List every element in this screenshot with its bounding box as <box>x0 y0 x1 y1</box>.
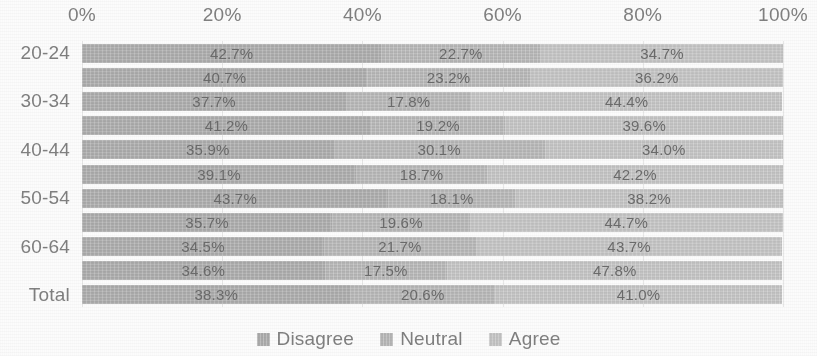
bar-value-label: 34.7% <box>640 45 684 62</box>
bar-segment-disagree: 41.2% <box>82 116 371 135</box>
legend-label: Disagree <box>277 328 355 350</box>
legend-item-neutral[interactable]: Neutral <box>380 328 463 350</box>
stacked-bar-chart: 0%20%40%60%80%100% 20-2430-3440-4450-546… <box>0 0 817 356</box>
bar-row: 41.2%19.2%39.6% <box>82 116 783 135</box>
category-axis-labels: 20-2430-3440-4450-5460-64Total <box>0 41 78 307</box>
bar-value-label: 44.7% <box>605 214 649 231</box>
bar-value-label: 40.7% <box>203 69 247 86</box>
x-axis-tick-100: 100% <box>758 4 808 26</box>
x-axis-tick-labels: 0%20%40%60%80%100% <box>0 4 817 32</box>
x-axis-tick-40: 40% <box>343 4 382 26</box>
bar-segment-agree: 42.2% <box>487 165 783 184</box>
x-axis-tick-80: 80% <box>623 4 662 26</box>
category-label-20-24: 20-24 <box>20 42 70 64</box>
chart-legend: DisagreeNeutralAgree <box>0 328 817 350</box>
bar-value-label: 18.1% <box>430 190 474 207</box>
category-label-40-44: 40-44 <box>20 139 70 161</box>
bar-value-label: 35.9% <box>186 141 230 158</box>
plot-area: 42.7%22.7%34.7%40.7%23.2%36.2%37.7%17.8%… <box>82 41 783 307</box>
bar-segment-agree: 34.7% <box>540 44 783 63</box>
bar-segment-agree: 41.0% <box>495 285 782 304</box>
bar-segment-neutral: 21.7% <box>324 237 476 256</box>
legend-item-agree[interactable]: Agree <box>489 328 561 350</box>
bar-value-label: 47.8% <box>593 262 637 279</box>
legend-swatch-disagree-icon <box>257 333 270 346</box>
bar-row: 35.9%30.1%34.0% <box>82 140 783 159</box>
bar-value-label: 43.7% <box>607 238 651 255</box>
bar-value-label: 19.2% <box>416 117 460 134</box>
bar-segment-neutral: 19.6% <box>332 213 469 232</box>
bar-segment-disagree: 35.7% <box>82 213 332 232</box>
bar-value-label: 37.7% <box>192 93 236 110</box>
bar-row: 34.6%17.5%47.8% <box>82 261 783 280</box>
bar-value-label: 39.6% <box>622 117 666 134</box>
bar-value-label: 18.7% <box>400 166 444 183</box>
bar-segment-disagree: 42.7% <box>82 44 381 63</box>
bar-segment-neutral: 30.1% <box>334 140 545 159</box>
bar-segment-disagree: 35.9% <box>82 140 334 159</box>
bar-segment-disagree: 34.6% <box>82 261 325 280</box>
bar-value-label: 42.7% <box>210 45 254 62</box>
bar-segment-neutral: 23.2% <box>367 68 530 87</box>
bar-segment-disagree: 43.7% <box>82 189 388 208</box>
bar-value-label: 23.2% <box>427 69 471 86</box>
category-label-50-54: 50-54 <box>20 187 70 209</box>
bar-value-label: 36.2% <box>635 69 679 86</box>
legend-label: Neutral <box>400 328 463 350</box>
bar-segment-agree: 36.2% <box>530 68 783 87</box>
legend-item-disagree[interactable]: Disagree <box>257 328 355 350</box>
bar-segment-agree: 39.6% <box>505 116 783 135</box>
bar-segment-neutral: 22.7% <box>381 44 540 63</box>
bar-segment-neutral: 18.7% <box>356 165 487 184</box>
x-axis-tick-20: 20% <box>203 4 242 26</box>
bar-value-label: 17.8% <box>387 93 431 110</box>
bar-value-label: 19.6% <box>379 214 423 231</box>
category-label-30-34: 30-34 <box>20 90 70 112</box>
bar-row: 35.7%19.6%44.7% <box>82 213 783 232</box>
bar-value-label: 21.7% <box>378 238 422 255</box>
bar-row: 34.5%21.7%43.7% <box>82 237 783 256</box>
bar-segment-agree: 34.0% <box>545 140 783 159</box>
legend-label: Agree <box>509 328 561 350</box>
bar-segment-neutral: 20.6% <box>350 285 494 304</box>
bar-value-label: 22.7% <box>439 45 483 62</box>
bar-segment-neutral: 18.1% <box>388 189 515 208</box>
bar-value-label: 20.6% <box>401 286 445 303</box>
bar-segment-disagree: 34.5% <box>82 237 324 256</box>
legend-swatch-neutral-icon <box>380 333 393 346</box>
bar-segment-neutral: 19.2% <box>371 116 506 135</box>
bar-row: 40.7%23.2%36.2% <box>82 68 783 87</box>
bar-segment-neutral: 17.5% <box>325 261 448 280</box>
bar-value-label: 34.0% <box>642 141 686 158</box>
bar-value-label: 34.5% <box>181 238 225 255</box>
bar-value-label: 17.5% <box>364 262 408 279</box>
bar-value-label: 44.4% <box>605 93 649 110</box>
bar-row: 42.7%22.7%34.7% <box>82 44 783 63</box>
bar-segment-disagree: 39.1% <box>82 165 356 184</box>
bar-value-label: 41.2% <box>205 117 249 134</box>
bar-segment-agree: 44.7% <box>470 213 783 232</box>
gridline-100 <box>783 41 784 307</box>
bar-value-label: 34.6% <box>181 262 225 279</box>
bar-value-label: 30.1% <box>417 141 461 158</box>
category-label-total: Total <box>29 284 70 306</box>
bar-segment-neutral: 17.8% <box>346 92 471 111</box>
bar-value-label: 43.7% <box>213 190 257 207</box>
bar-value-label: 41.0% <box>617 286 661 303</box>
bar-segment-disagree: 38.3% <box>82 285 350 304</box>
bar-segment-disagree: 40.7% <box>82 68 367 87</box>
bar-value-label: 38.2% <box>627 190 671 207</box>
bar-value-label: 35.7% <box>185 214 229 231</box>
bar-row: 39.1%18.7%42.2% <box>82 165 783 184</box>
bar-value-label: 42.2% <box>613 166 657 183</box>
bar-value-label: 38.3% <box>194 286 238 303</box>
bar-value-label: 39.1% <box>197 166 241 183</box>
bar-segment-agree: 44.4% <box>471 92 782 111</box>
bar-row: 43.7%18.1%38.2% <box>82 189 783 208</box>
category-label-60-64: 60-64 <box>20 236 70 258</box>
bar-row: 37.7%17.8%44.4% <box>82 92 783 111</box>
x-axis-tick-60: 60% <box>483 4 522 26</box>
x-axis-tick-0: 0% <box>68 4 96 26</box>
bar-segment-agree: 47.8% <box>447 261 782 280</box>
bar-segment-agree: 43.7% <box>476 237 782 256</box>
